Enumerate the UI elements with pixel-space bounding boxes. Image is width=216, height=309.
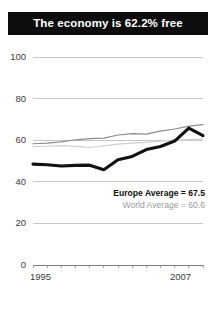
y-tick-label: 60 xyxy=(2,135,26,145)
series-line xyxy=(33,128,203,170)
x-tick-label-start: 1995 xyxy=(30,272,51,282)
plot-area: 100 80 60 40 20 0 1995 2007 Europe Avera… xyxy=(0,0,216,309)
legend-europe-average: Europe Average = 67.5 xyxy=(113,189,205,198)
plot-canvas xyxy=(0,0,216,309)
y-tick-label: 0 xyxy=(2,260,26,270)
x-tick-label-end: 2007 xyxy=(170,272,191,282)
series-line xyxy=(33,125,203,144)
y-tick-label: 40 xyxy=(2,177,26,187)
y-tick-label: 20 xyxy=(2,218,26,228)
y-tick-label: 100 xyxy=(2,52,26,62)
legend-world-average: World Average = 60.6 xyxy=(122,201,205,210)
y-tick-label: 80 xyxy=(2,94,26,104)
data-series-group xyxy=(33,125,203,170)
economic-freedom-chart: The economy is 62.2% free 100 80 60 40 2… xyxy=(0,0,216,309)
